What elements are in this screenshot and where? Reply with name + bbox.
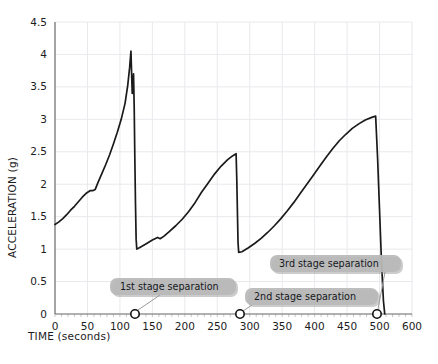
x-tick-label: 200 [175,320,195,332]
x-tick-label: 500 [370,320,390,332]
annotations-group: 1st stage separation2nd stage separation… [110,255,403,318]
x-tick-label: 350 [272,320,292,332]
annotation-marker-stage1 [131,310,139,318]
y-tick-label: 1.5 [30,210,47,222]
x-tick-label: 100 [110,320,130,332]
x-tick-label: 300 [240,320,260,332]
y-tick-label: 0 [40,308,47,320]
annotation-label-stage2: 2nd stage separation [254,291,356,302]
y-tick-label: 1 [40,243,47,255]
x-tick-label: 600 [402,320,422,332]
data-series-group [55,51,385,314]
annotation-marker-stage3 [373,310,381,318]
y-tick-labels: 00.511.522.533.544.5 [30,16,47,320]
x-axis-title: TIME (seconds) [27,330,110,342]
y-tick-label: 2 [40,178,47,190]
x-tick-label: 150 [142,320,162,332]
data-line-acceleration [55,51,385,314]
y-tick-label: 2.5 [30,145,47,157]
acceleration-chart: 00.511.522.533.544.5 0501001502002503003… [0,0,438,364]
x-tick-label: 250 [207,320,227,332]
y-tick-label: 3.5 [30,80,47,92]
y-tick-label: 3 [40,113,47,125]
annotation-label-stage3: 3rd stage separation [279,258,379,269]
chart-canvas: 00.511.522.533.544.5 0501001502002503003… [0,0,438,364]
y-tick-label: 4.5 [30,16,47,28]
annotation-label-stage1: 1st stage separation [120,281,219,292]
y-tick-label: 4 [40,48,47,60]
x-tick-label: 400 [305,320,325,332]
x-tick-label: 450 [337,320,357,332]
y-axis-title: ACCELERATION (g) [6,157,18,258]
annotation-leader-stage1 [138,295,160,310]
annotation-leader-stage2 [243,305,252,311]
annotation-marker-stage2 [236,310,244,318]
y-tick-label: 0.5 [30,275,47,287]
